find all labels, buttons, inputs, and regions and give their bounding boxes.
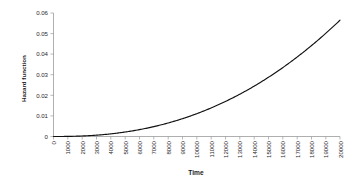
x-tick-label: 19000 xyxy=(322,140,329,158)
x-tick-label: 6000 xyxy=(136,140,143,154)
x-tick-label: 10000 xyxy=(193,140,200,158)
x-tick-label: 8000 xyxy=(165,140,172,154)
y-tick-label: 0.02 xyxy=(36,92,48,99)
x-tick-label: 15000 xyxy=(265,140,272,158)
y-tick-label: 0.01 xyxy=(36,112,48,119)
x-tick-label: 18000 xyxy=(308,140,315,158)
y-tick-label: 0.06 xyxy=(36,9,48,16)
x-tick-label: 4000 xyxy=(107,140,114,154)
hazard-function-line-chart: 0.06 0.05 0.04 0.03 0.02 0.01 0 Hazard f… xyxy=(0,0,357,180)
x-tick-label: 5000 xyxy=(122,140,129,154)
x-tick-label: 12000 xyxy=(222,140,229,158)
y-tick-label: 0.04 xyxy=(36,50,48,57)
x-tick-label: 13000 xyxy=(236,140,243,158)
x-tick-label: 20000 xyxy=(337,140,344,158)
x-tick-label: 1000 xyxy=(64,140,71,154)
x-tick-label: 17000 xyxy=(294,140,301,158)
y-tick-label: 0.03 xyxy=(36,71,48,78)
x-tick-label: 9000 xyxy=(179,140,186,154)
x-tick-label: 7000 xyxy=(150,140,157,154)
x-tick-label: 2000 xyxy=(79,140,86,154)
x-tick-label: 14000 xyxy=(251,140,258,158)
x-tick-label: 16000 xyxy=(279,140,286,158)
x-tick-label: 3000 xyxy=(93,140,100,154)
x-axis-title: Time xyxy=(188,169,204,176)
x-tick-marks xyxy=(54,137,341,140)
x-tick-labels: 0 1000 2000 3000 4000 5000 6000 7000 800… xyxy=(50,140,344,158)
x-tick-label: 11000 xyxy=(208,140,215,157)
chart-figure: 0.06 0.05 0.04 0.03 0.02 0.01 0 Hazard f… xyxy=(0,0,357,180)
y-axis-title: Hazard function xyxy=(20,55,27,102)
y-tick-label: 0.05 xyxy=(36,30,48,37)
